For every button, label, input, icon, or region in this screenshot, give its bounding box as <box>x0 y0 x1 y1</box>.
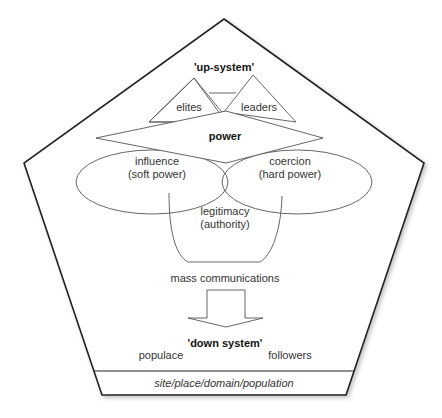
followers-label: followers <box>268 349 311 362</box>
soft-power-label: (soft power) <box>128 168 186 181</box>
power-label: power <box>209 130 241 143</box>
authority-label: (authority) <box>200 218 250 231</box>
influence-label: influence <box>135 155 179 168</box>
base-band-label: site/place/domain/population <box>154 377 293 390</box>
coercion-label: coercion <box>269 155 311 168</box>
populace-label: populace <box>139 349 184 362</box>
mass-communications-label: mass communications <box>171 272 280 285</box>
down-system-label: 'down system' <box>188 337 263 350</box>
power-pentagon-diagram: 'up-system' elites leaders power influen… <box>0 0 442 418</box>
legitimacy-label: legitimacy <box>201 205 250 218</box>
leaders-label: leaders <box>241 101 277 114</box>
elites-label: elites <box>176 101 202 114</box>
up-system-label: 'up-system' <box>194 61 254 74</box>
hard-power-label: (hard power) <box>259 168 321 181</box>
